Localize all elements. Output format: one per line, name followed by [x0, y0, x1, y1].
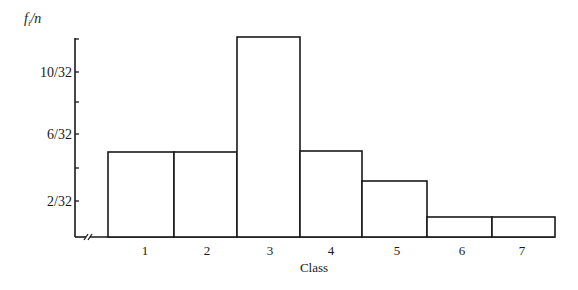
bar-class-3 [237, 37, 300, 237]
bar-class-4 [300, 151, 362, 237]
y-tick-label-2-32: 2/32 [47, 194, 72, 209]
x-tick-label-1: 1 [142, 243, 149, 258]
x-axis-title: Class [300, 260, 328, 275]
x-tick-label-4: 4 [328, 243, 335, 258]
y-tick-label-10-32: 10/32 [40, 65, 72, 80]
bar-class-5 [362, 181, 427, 237]
y-axis-title: fi/n [24, 11, 41, 28]
bar-class-1 [108, 152, 174, 237]
x-tick-label-2: 2 [204, 243, 211, 258]
x-tick-label-3: 3 [267, 243, 274, 258]
bar-class-6 [427, 217, 492, 237]
x-tick-label-7: 7 [519, 243, 526, 258]
x-tick-label-6: 6 [459, 243, 466, 258]
histogram-bars [108, 37, 555, 237]
bar-class-2 [174, 152, 237, 237]
bar-class-7 [492, 217, 555, 237]
y-tick-label-6-32: 6/32 [47, 127, 72, 142]
histogram-chart: fi/n 10/32 6/32 2/32 1 2 3 4 5 6 7 [0, 0, 578, 290]
x-tick-labels: 1 2 3 4 5 6 7 [142, 243, 526, 258]
x-tick-label-5: 5 [394, 243, 401, 258]
